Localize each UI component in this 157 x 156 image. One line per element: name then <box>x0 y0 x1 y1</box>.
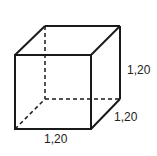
cube-drawing <box>0 0 157 156</box>
height-label: 1,20 <box>127 64 150 76</box>
top-right-edge <box>91 26 120 55</box>
top-left-edge <box>15 26 45 55</box>
depth-label: 1,20 <box>114 111 137 123</box>
width-label: 1,20 <box>44 133 67 145</box>
hidden-depth-edge <box>15 99 45 129</box>
